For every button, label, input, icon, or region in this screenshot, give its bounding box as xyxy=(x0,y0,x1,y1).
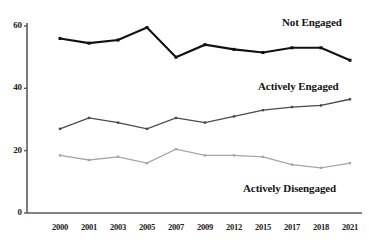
data-point xyxy=(59,37,62,40)
data-point xyxy=(320,104,322,106)
data-point xyxy=(233,115,235,117)
data-point xyxy=(233,48,236,51)
data-point xyxy=(88,117,90,119)
data-point xyxy=(349,162,351,164)
x-tick-label: 2021 xyxy=(333,222,367,232)
data-point xyxy=(320,46,323,49)
series-label-1: Actively Engaged xyxy=(258,80,339,92)
data-point xyxy=(175,148,177,150)
data-point xyxy=(204,43,207,46)
y-tick-label: 60 xyxy=(2,20,22,30)
data-point xyxy=(117,156,119,158)
data-point xyxy=(204,121,206,123)
series-label-2: Actively Disengaged xyxy=(243,182,336,194)
plot-area xyxy=(0,0,369,246)
data-point xyxy=(291,106,293,108)
data-point xyxy=(59,154,61,156)
series-0 xyxy=(59,26,352,62)
data-point xyxy=(146,162,148,164)
series-2 xyxy=(59,148,351,169)
data-point xyxy=(349,59,352,62)
data-point xyxy=(320,167,322,169)
data-point xyxy=(59,128,61,130)
series-line-1 xyxy=(60,99,350,129)
data-point xyxy=(117,39,120,42)
data-point xyxy=(349,98,351,100)
data-point xyxy=(262,109,264,111)
series-line-2 xyxy=(60,149,350,168)
data-point xyxy=(146,26,149,29)
data-point xyxy=(175,56,178,59)
data-point xyxy=(233,154,235,156)
data-point xyxy=(88,159,90,161)
data-point xyxy=(204,154,206,156)
y-tick-label: 0 xyxy=(2,207,22,217)
data-point xyxy=(262,51,265,54)
data-point xyxy=(291,46,294,49)
data-point xyxy=(291,163,293,165)
data-point xyxy=(175,117,177,119)
y-tick-label: 20 xyxy=(2,145,22,155)
data-point xyxy=(117,121,119,123)
series-1 xyxy=(59,98,351,130)
data-point xyxy=(88,42,91,45)
data-point xyxy=(262,156,264,158)
series-label-0: Not Engaged xyxy=(282,16,342,28)
line-chart: 0204060 20002001200320052007200920122015… xyxy=(0,0,369,246)
y-tick-label: 40 xyxy=(2,82,22,92)
data-point xyxy=(146,128,148,130)
